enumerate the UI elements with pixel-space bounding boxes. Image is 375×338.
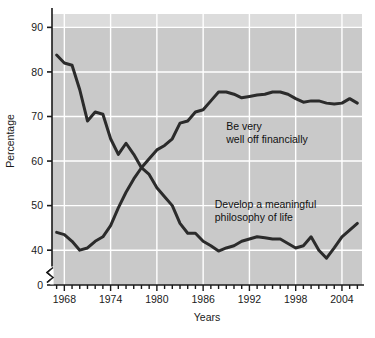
x-tick-label: 1968 bbox=[53, 293, 77, 305]
y-axis-title: Percentage bbox=[4, 114, 16, 168]
x-tick-label: 1998 bbox=[284, 293, 308, 305]
y-tick-label: 40 bbox=[31, 244, 43, 256]
annotation-line: Be very bbox=[226, 120, 262, 132]
chart-figure: 0405060708090 19681974198019861992199820… bbox=[0, 0, 375, 338]
x-tick-label: 1974 bbox=[99, 293, 123, 305]
x-tick-label: 1980 bbox=[145, 293, 169, 305]
y-tick-label: 0 bbox=[37, 279, 43, 291]
y-tick-label: 60 bbox=[31, 155, 43, 167]
y-tick-label: 90 bbox=[31, 21, 43, 33]
x-tick-label: 2004 bbox=[330, 293, 354, 305]
annotation-line: Develop a meaningful bbox=[215, 198, 317, 210]
annotation-line: philosophy of life bbox=[215, 211, 293, 223]
x-axis-title: Years bbox=[194, 311, 220, 323]
x-tick-label: 1992 bbox=[238, 293, 262, 305]
y-tick-label: 80 bbox=[31, 66, 43, 78]
y-tick-label: 70 bbox=[31, 110, 43, 122]
annotation-line: well off financially bbox=[225, 133, 308, 145]
y-tick-label: 50 bbox=[31, 199, 43, 211]
line-chart: 0405060708090 19681974198019861992199820… bbox=[0, 0, 375, 338]
x-tick-label: 1986 bbox=[191, 293, 215, 305]
